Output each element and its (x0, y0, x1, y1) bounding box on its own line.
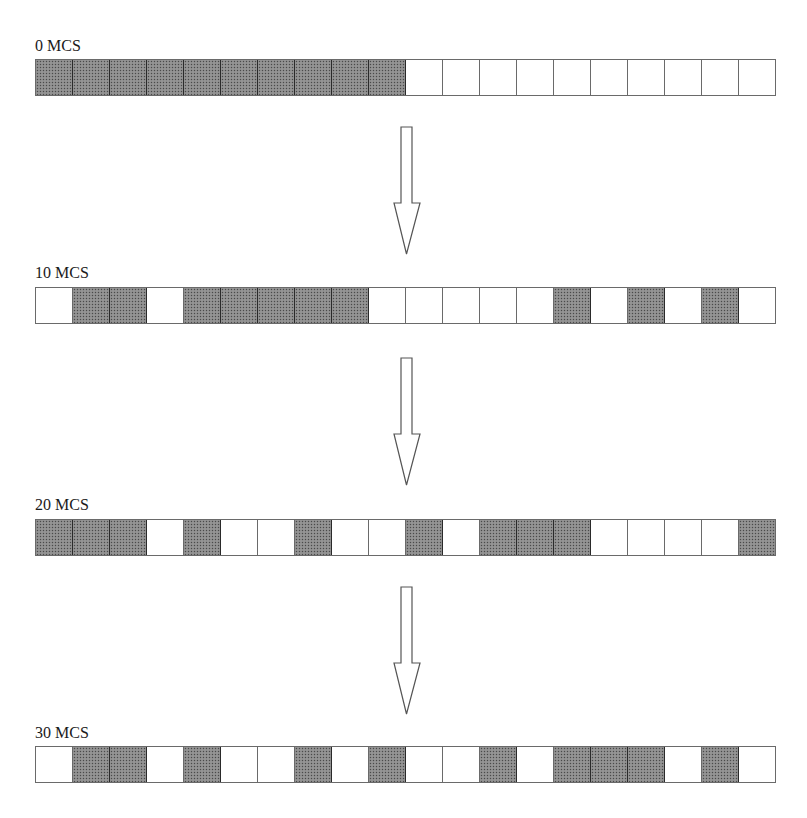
occupied-site (295, 60, 332, 95)
down-arrow-icon (390, 357, 424, 487)
empty-site (702, 520, 739, 555)
empty-site (517, 747, 554, 782)
lattice-row-0 (35, 59, 776, 96)
empty-site (665, 747, 702, 782)
empty-site (36, 747, 73, 782)
empty-site (443, 520, 480, 555)
occupied-site (332, 288, 369, 323)
occupied-site (480, 747, 517, 782)
occupied-site (73, 747, 110, 782)
empty-site (258, 520, 295, 555)
occupied-site (406, 520, 443, 555)
occupied-site (184, 520, 221, 555)
occupied-site (184, 747, 221, 782)
occupied-site (36, 520, 73, 555)
empty-site (443, 747, 480, 782)
occupied-site (221, 60, 258, 95)
down-arrow-icon (390, 126, 424, 256)
empty-site (739, 60, 775, 95)
occupied-site (221, 288, 258, 323)
empty-site (517, 288, 554, 323)
empty-site (147, 288, 184, 323)
snapshot-label-20: 20 MCS (35, 496, 89, 514)
occupied-site (702, 747, 739, 782)
occupied-site (36, 60, 73, 95)
empty-site (258, 747, 295, 782)
empty-site (147, 520, 184, 555)
empty-site (406, 747, 443, 782)
empty-site (739, 747, 775, 782)
occupied-site (554, 288, 591, 323)
empty-site (406, 60, 443, 95)
empty-site (406, 288, 443, 323)
occupied-site (184, 60, 221, 95)
occupied-site (369, 747, 406, 782)
empty-site (443, 60, 480, 95)
empty-site (665, 520, 702, 555)
snapshot-label-0: 0 MCS (35, 37, 81, 55)
empty-site (702, 60, 739, 95)
occupied-site (110, 288, 147, 323)
occupied-site (369, 60, 406, 95)
occupied-site (110, 60, 147, 95)
empty-site (332, 520, 369, 555)
empty-site (517, 60, 554, 95)
occupied-site (110, 747, 147, 782)
empty-site (628, 520, 665, 555)
empty-site (480, 60, 517, 95)
occupied-site (258, 60, 295, 95)
empty-site (665, 60, 702, 95)
occupied-site (628, 288, 665, 323)
occupied-site (73, 60, 110, 95)
lattice-row-20 (35, 519, 776, 556)
occupied-site (295, 520, 332, 555)
occupied-site (73, 288, 110, 323)
occupied-site (110, 520, 147, 555)
occupied-site (332, 60, 369, 95)
empty-site (591, 520, 628, 555)
down-arrow-icon (390, 586, 424, 716)
occupied-site (554, 747, 591, 782)
snapshot-label-10: 10 MCS (35, 264, 89, 282)
occupied-site (258, 288, 295, 323)
empty-site (591, 288, 628, 323)
empty-site (332, 747, 369, 782)
occupied-site (147, 60, 184, 95)
empty-site (147, 747, 184, 782)
occupied-site (517, 520, 554, 555)
occupied-site (554, 520, 591, 555)
occupied-site (295, 288, 332, 323)
lattice-evolution-diagram: 0 MCS 10 MCS 20 MCS 30 MCS (0, 0, 807, 818)
empty-site (591, 60, 628, 95)
occupied-site (480, 520, 517, 555)
snapshot-label-30: 30 MCS (35, 724, 89, 742)
empty-site (221, 747, 258, 782)
occupied-site (591, 747, 628, 782)
empty-site (554, 60, 591, 95)
empty-site (480, 288, 517, 323)
occupied-site (628, 747, 665, 782)
empty-site (628, 60, 665, 95)
occupied-site (295, 747, 332, 782)
occupied-site (73, 520, 110, 555)
empty-site (221, 520, 258, 555)
occupied-site (184, 288, 221, 323)
empty-site (443, 288, 480, 323)
empty-site (369, 520, 406, 555)
empty-site (665, 288, 702, 323)
empty-site (369, 288, 406, 323)
empty-site (36, 288, 73, 323)
occupied-site (739, 520, 775, 555)
occupied-site (702, 288, 739, 323)
empty-site (739, 288, 775, 323)
lattice-row-30 (35, 746, 776, 783)
lattice-row-10 (35, 287, 776, 324)
